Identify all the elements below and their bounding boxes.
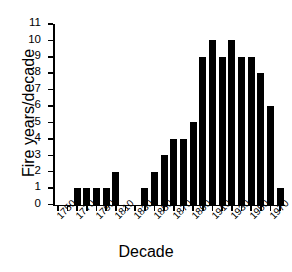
plot-area: 01234567891011 1750177017901810183018501… — [53, 24, 285, 206]
x-axis-tick — [183, 206, 185, 211]
x-axis-tick — [125, 206, 127, 211]
y-axis-tick-label: 1 — [35, 182, 41, 194]
bar — [219, 57, 226, 205]
bar — [228, 40, 235, 204]
x-axis-tick — [67, 206, 69, 211]
y-axis-tick-label: 2 — [35, 165, 41, 177]
y-axis-tick: 3 — [48, 155, 53, 157]
x-axis-tick — [163, 206, 165, 211]
bar — [161, 155, 168, 204]
y-axis-tick: 11 — [48, 23, 53, 25]
bar — [83, 188, 90, 204]
y-axis-tick-label: 4 — [35, 132, 41, 144]
chart-figure: Fire years/decade 01234567891011 1750177… — [0, 0, 292, 272]
y-axis-tick: 5 — [48, 122, 53, 124]
x-axis-tick — [202, 206, 204, 211]
x-axis-tick — [279, 206, 281, 211]
x-axis-tick — [241, 206, 243, 211]
bar — [267, 106, 274, 204]
y-axis-tick-label: 9 — [35, 50, 41, 62]
y-axis-tick: 0 — [48, 204, 53, 206]
y-axis-tick: 10 — [48, 40, 53, 42]
y-axis-tick: 2 — [48, 171, 53, 173]
x-axis-tick — [144, 206, 146, 211]
y-axis-tick-label: 5 — [35, 116, 41, 128]
y-axis-tick-label: 8 — [35, 67, 41, 79]
y-axis-tick: 4 — [48, 138, 53, 140]
bar — [151, 172, 158, 205]
y-axis-tick-label: 6 — [35, 100, 41, 112]
y-axis-tick: 9 — [48, 56, 53, 58]
bar — [257, 73, 264, 204]
x-axis-title: Decade — [0, 243, 292, 261]
bar — [277, 188, 284, 204]
y-axis-tick-label: 3 — [35, 149, 41, 161]
y-axis-title: Fire years/decade — [20, 18, 38, 208]
bar — [238, 57, 245, 205]
bar — [93, 188, 100, 204]
x-axis-tick — [221, 206, 223, 211]
y-axis-line — [53, 24, 55, 206]
y-axis-tick: 8 — [48, 72, 53, 74]
y-axis-tick: 6 — [48, 105, 53, 107]
bar — [190, 122, 197, 204]
bar — [112, 172, 119, 205]
y-axis-tick-label: 7 — [35, 83, 41, 95]
y-axis-tick: 1 — [48, 187, 53, 189]
bar — [248, 57, 255, 205]
y-axis-tick-label: 11 — [29, 18, 41, 30]
x-axis-tick — [86, 206, 88, 211]
x-axis-tick — [260, 206, 262, 211]
bar — [74, 188, 81, 204]
bar — [180, 139, 187, 205]
y-axis-tick-label: 10 — [28, 34, 41, 46]
bar — [141, 188, 148, 204]
bar — [209, 40, 216, 204]
bar — [170, 139, 177, 205]
bar — [199, 57, 206, 205]
x-axis-tick — [105, 206, 107, 211]
y-axis-tick-label: 0 — [35, 198, 41, 210]
bar — [103, 188, 110, 204]
y-axis-tick: 7 — [48, 89, 53, 91]
